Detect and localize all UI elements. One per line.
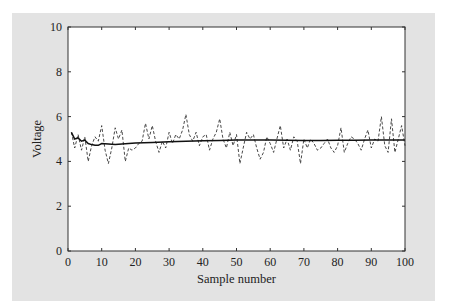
y-axis-label: Voltage bbox=[30, 120, 44, 158]
x-tick-label: 100 bbox=[396, 255, 414, 269]
x-tick-label: 40 bbox=[197, 255, 209, 269]
y-tick-label: 4 bbox=[56, 154, 62, 168]
x-axis-label: Sample number bbox=[197, 272, 277, 286]
x-tick-label: 70 bbox=[298, 255, 310, 269]
x-tick-label: 30 bbox=[163, 255, 175, 269]
y-tick-label: 8 bbox=[56, 65, 62, 79]
y-tick-label: 6 bbox=[56, 110, 62, 124]
x-tick-label: 10 bbox=[96, 255, 108, 269]
x-tick-label: 80 bbox=[332, 255, 344, 269]
y-tick-label: 10 bbox=[50, 20, 62, 34]
y-tick-label: 0 bbox=[56, 244, 62, 258]
x-tick-label: 90 bbox=[365, 255, 377, 269]
y-tick-label: 2 bbox=[56, 199, 62, 213]
voltage-chart: 01020304050607080901000246810 Sample num… bbox=[0, 0, 449, 303]
x-tick-label: 0 bbox=[65, 255, 71, 269]
x-tick-label: 20 bbox=[129, 255, 141, 269]
x-tick-label: 50 bbox=[231, 255, 243, 269]
plot-area bbox=[68, 27, 405, 251]
x-tick-label: 60 bbox=[264, 255, 276, 269]
